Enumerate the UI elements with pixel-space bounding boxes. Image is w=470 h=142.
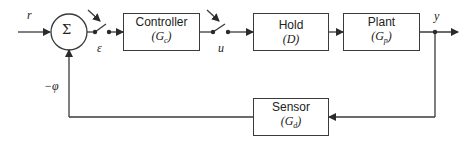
control-block-diagram: Σ r ε u y −φ Controller (Gc) Hold (D) Pl… <box>0 0 470 142</box>
sensor-transfer-function: (Gd) <box>281 114 302 133</box>
hold-title: Hold <box>279 18 304 32</box>
summation-symbol: Σ <box>62 22 71 37</box>
hold-transfer-function: (D) <box>283 32 300 46</box>
sensor-block: Sensor (Gd) <box>253 98 329 136</box>
output-signal-label: y <box>434 9 439 24</box>
control-signal-label: u <box>218 41 224 56</box>
controller-block: Controller (Gc) <box>123 13 200 51</box>
plant-title: Plant <box>368 15 395 29</box>
plant-block: Plant (Gp) <box>343 13 420 51</box>
feedback-signal-label: −φ <box>44 79 59 94</box>
error-signal-label: ε <box>97 41 102 56</box>
reference-signal-label: r <box>27 8 32 23</box>
hold-block: Hold (D) <box>253 13 329 51</box>
controller-title: Controller <box>135 15 187 29</box>
controller-transfer-function: (Gc) <box>151 29 171 48</box>
plant-transfer-function: (Gp) <box>371 29 392 48</box>
sensor-title: Sensor <box>272 100 310 114</box>
output-pickoff-node <box>433 30 437 34</box>
